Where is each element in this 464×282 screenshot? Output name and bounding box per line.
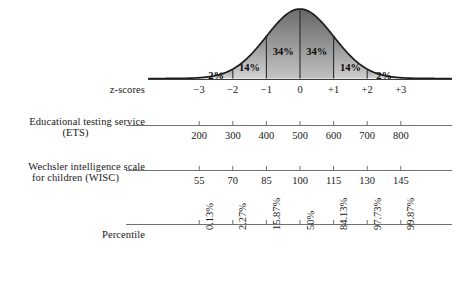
row-label-wisc-line1: Wechsler intelligence scale [10, 161, 145, 172]
row-label-ets-line1: Educational testing service [10, 116, 145, 127]
tick-label-ets-6: 800 [379, 130, 423, 141]
tick-label-wisc-6: 145 [379, 175, 423, 186]
band-dividers [199, 9, 401, 79]
tick-label-z-scores-6: +3 [379, 84, 423, 95]
band-34-percent-2 [266, 9, 300, 79]
row-label-ets-line2: (ETS) [10, 127, 145, 138]
tick-label-percentile-3: 50% [305, 210, 316, 229]
band-percent-label-1: 14% [232, 62, 268, 73]
tick-label-percentile-1: 2.27% [237, 202, 248, 229]
row-label-percentile-line1: Percentile [10, 229, 145, 240]
row-label-ets: Educational testing service(ETS) [10, 116, 145, 138]
tick-label-percentile-6: 99.87% [405, 197, 416, 229]
band-percent-label-4: 14% [332, 62, 368, 73]
row-label-z-scores-line1: z-scores [10, 84, 145, 95]
band-percent-label-0: 2% [198, 70, 234, 81]
tick-label-percentile-5: 97.73% [372, 197, 383, 229]
band-percent-label-3: 34% [299, 46, 335, 57]
row-label-wisc-line2: for children (WISC) [10, 172, 145, 183]
band-percent-label-5: 2% [366, 70, 402, 81]
band-percent-label-2: 34% [265, 46, 301, 57]
row-label-percentile: Percentile [10, 229, 145, 240]
scale-axes [126, 80, 452, 225]
tick-label-percentile-0: 0.13% [204, 202, 215, 229]
tick-label-percentile-4: 84.13% [338, 197, 349, 229]
band-34-percent-3 [300, 9, 334, 79]
row-label-wisc: Wechsler intelligence scalefor children … [10, 161, 145, 183]
row-label-z-scores: z-scores [10, 84, 145, 95]
tick-label-percentile-2: 15.87% [271, 197, 282, 229]
